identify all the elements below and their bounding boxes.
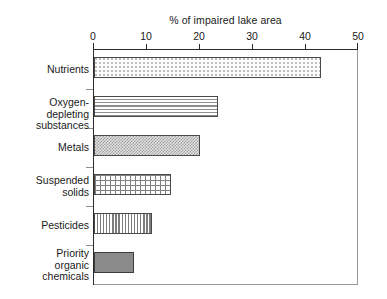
category-label-oxygen-depleting-substances: Oxygen- depleting substances	[36, 97, 89, 132]
y-cat-tick-3	[86, 167, 93, 168]
category-label-metals: Metals	[58, 142, 89, 154]
axis-title: % of impaired lake area	[93, 14, 358, 26]
x-tick-label-20: 20	[186, 30, 212, 42]
x-tick-mark-50	[357, 43, 358, 50]
x-tick-label-40: 40	[292, 30, 318, 42]
bar-priority-organic-chemicals	[94, 252, 134, 273]
bar-suspended-solids	[94, 174, 171, 195]
category-label-suspended-solids: Suspended solids	[36, 175, 89, 198]
x-tick-label-50: 50	[345, 30, 371, 42]
category-label-nutrients: Nutrients	[47, 64, 89, 76]
bar-pesticides	[94, 213, 152, 234]
y-cat-tick-1	[86, 89, 93, 90]
y-cat-tick-5	[86, 245, 93, 246]
bar-metals	[94, 135, 200, 156]
x-tick-label-0: 0	[80, 30, 106, 42]
x-tick-label-30: 30	[239, 30, 265, 42]
bar-chart: % of impaired lake area 0 10 20 30 40 50…	[0, 0, 387, 299]
y-cat-tick-4	[86, 206, 93, 207]
category-label-pesticides: Pesticides	[41, 220, 89, 232]
bar-nutrients	[94, 57, 321, 78]
y-axis-line	[93, 49, 94, 285]
bar-oxygen-depleting-substances	[94, 96, 218, 117]
x-tick-label-10: 10	[133, 30, 159, 42]
category-label-priority-organic-chemicals: Priority organic chemicals	[42, 248, 89, 283]
plot-area	[93, 50, 358, 285]
